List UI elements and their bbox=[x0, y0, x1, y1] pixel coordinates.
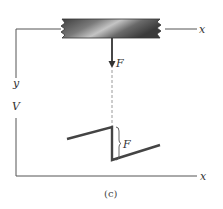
shear-curve bbox=[67, 127, 160, 160]
arrow-head-icon bbox=[109, 61, 116, 68]
y-label: y bbox=[12, 77, 20, 90]
force-label: F bbox=[115, 57, 124, 70]
x-label-top: x bbox=[199, 23, 206, 36]
jump-brace bbox=[116, 127, 121, 160]
shear-axes bbox=[16, 118, 197, 176]
jump-label: F bbox=[122, 138, 131, 151]
v-label: V bbox=[12, 100, 21, 113]
force-arrow bbox=[109, 38, 116, 68]
beam-shear-diagram: x y F V x F (c) bbox=[0, 0, 223, 209]
figure-caption: (c) bbox=[104, 188, 118, 199]
x-label-bottom: x bbox=[200, 170, 207, 183]
beam-section bbox=[61, 19, 161, 38]
